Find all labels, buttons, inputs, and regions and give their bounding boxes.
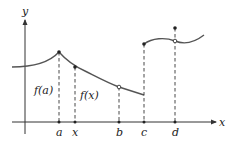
axis-dot-x bbox=[74, 121, 77, 124]
axis-dot-a bbox=[58, 121, 61, 124]
point-peak-a bbox=[57, 50, 61, 54]
point-fx bbox=[73, 65, 77, 69]
curve-left-segment bbox=[12, 52, 59, 67]
axis-dot-c bbox=[143, 121, 146, 124]
tick-label-d: d bbox=[172, 126, 179, 139]
y-axis-label: y bbox=[21, 5, 29, 18]
tick-label-a: a bbox=[56, 126, 63, 139]
hole-b bbox=[117, 85, 121, 89]
axis-dot-b bbox=[118, 121, 121, 124]
tick-label-x: x bbox=[72, 126, 79, 139]
label-f-of-x: f(x) bbox=[79, 89, 99, 102]
label-f-of-a: f(a) bbox=[33, 84, 53, 97]
curve-middle-segment bbox=[59, 52, 119, 87]
x-axis-label: x bbox=[219, 116, 226, 129]
point-value-d bbox=[173, 26, 177, 30]
axis-dot-d bbox=[174, 121, 177, 124]
function-graph: y x f(a) f(x) a x b c d bbox=[0, 0, 232, 141]
point-start-c bbox=[142, 42, 146, 46]
tick-label-c: c bbox=[141, 126, 147, 139]
curve-bc-segment bbox=[119, 87, 144, 95]
hole-d bbox=[173, 39, 177, 43]
tick-label-b: b bbox=[116, 126, 123, 139]
